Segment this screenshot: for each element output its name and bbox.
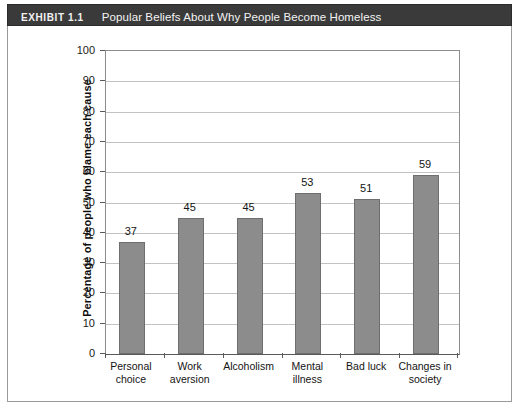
bar-chart: Percentage of people who blame each caus… bbox=[0, 0, 528, 414]
x-axis-tick bbox=[105, 353, 106, 358]
gridline bbox=[106, 233, 459, 234]
gridline bbox=[106, 172, 459, 173]
x-axis-tick bbox=[223, 353, 224, 358]
y-axis-tick bbox=[100, 262, 105, 263]
bar-value-label: 45 bbox=[184, 201, 196, 213]
y-axis-tick-label: 80 bbox=[69, 105, 95, 117]
x-axis-tick bbox=[164, 353, 165, 358]
bar bbox=[178, 218, 204, 354]
y-axis-tick-label: 70 bbox=[69, 135, 95, 147]
x-axis-category-label: Bad luck bbox=[346, 360, 386, 373]
x-axis-tick bbox=[457, 353, 458, 358]
y-axis-tick bbox=[100, 232, 105, 233]
y-axis-tick bbox=[100, 111, 105, 112]
y-axis-tick bbox=[100, 80, 105, 81]
y-axis-tick-label: 20 bbox=[69, 286, 95, 298]
x-axis-category-label: Work aversion bbox=[170, 360, 210, 386]
bar bbox=[119, 242, 145, 354]
gridline bbox=[106, 324, 459, 325]
y-axis-tick bbox=[100, 141, 105, 142]
y-axis-tick-label: 100 bbox=[69, 44, 95, 56]
y-axis-tick-label: 60 bbox=[69, 165, 95, 177]
bar bbox=[295, 193, 321, 354]
plot-area bbox=[105, 50, 460, 355]
exhibit-figure: EXHIBIT 1.1Popular Beliefs About Why Peo… bbox=[0, 0, 528, 414]
y-axis-tick-label: 50 bbox=[69, 196, 95, 208]
x-axis-category-label: Alcoholism bbox=[223, 360, 274, 373]
x-axis-tick bbox=[282, 353, 283, 358]
bar-value-label: 51 bbox=[360, 182, 372, 194]
x-axis-category-label: Personal choice bbox=[110, 360, 151, 386]
x-axis-tick bbox=[399, 353, 400, 358]
bar bbox=[237, 218, 263, 354]
y-axis-tick-label: 30 bbox=[69, 256, 95, 268]
bar-value-label: 37 bbox=[125, 225, 137, 237]
bar bbox=[413, 175, 439, 354]
gridline bbox=[106, 112, 459, 113]
x-axis-tick bbox=[340, 353, 341, 358]
y-axis-tick-label: 40 bbox=[69, 226, 95, 238]
bar-value-label: 53 bbox=[301, 176, 313, 188]
y-axis-tick-label: 90 bbox=[69, 74, 95, 86]
bar-value-label: 59 bbox=[419, 158, 431, 170]
y-axis-tick bbox=[100, 50, 105, 51]
x-axis-category-label: Mental illness bbox=[292, 360, 324, 386]
gridline bbox=[106, 293, 459, 294]
gridline bbox=[106, 142, 459, 143]
x-axis-category-label: Changes in society bbox=[398, 360, 451, 386]
y-axis-tick-label: 0 bbox=[69, 347, 95, 359]
y-axis-tick bbox=[100, 202, 105, 203]
gridline bbox=[106, 203, 459, 204]
bar-value-label: 45 bbox=[242, 201, 254, 213]
y-axis-tick bbox=[100, 292, 105, 293]
y-axis-tick bbox=[100, 323, 105, 324]
y-axis-tick bbox=[100, 171, 105, 172]
y-axis-tick-label: 10 bbox=[69, 317, 95, 329]
gridline bbox=[106, 81, 459, 82]
gridline bbox=[106, 263, 459, 264]
bar bbox=[354, 199, 380, 354]
